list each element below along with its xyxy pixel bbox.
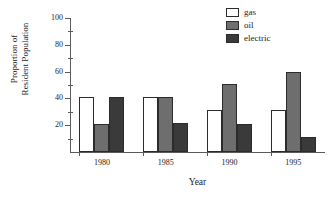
x-tick [79,152,80,156]
y-tick-label: 40 [41,94,63,102]
x-tick-label: 1980 [82,158,122,167]
y-axis-title-line-2: Resident Population [20,0,31,124]
x-tick [143,152,144,156]
legend-swatch-oil [226,21,239,30]
y-tick-minor [68,85,73,86]
y-tick-major [65,125,70,126]
x-axis-title: Year [70,177,325,187]
legend-swatch-electric [226,34,239,43]
y-tick-label: 20 [41,121,63,129]
bar-oil-1985 [158,97,173,152]
legend-label-oil: oil [244,21,254,30]
legend-label-electric: electric [244,34,270,43]
x-tick-label: 1990 [209,158,249,167]
y-tick-minor [68,112,73,113]
bar-gas-1980 [79,97,94,152]
x-tick-label: 1985 [146,158,186,167]
y-axis-title: Proportion of Resident Population [9,0,31,124]
y-tick-major [65,45,70,46]
y-tick-major [65,98,70,99]
bar-oil-1980 [94,124,109,152]
x-axis-line [70,152,325,153]
bar-gas-1985 [143,97,158,152]
y-tick-major [65,18,70,19]
bar-gas-1990 [207,110,222,152]
bar-electric-1995 [301,137,316,152]
legend-item-gas: gas [226,7,270,18]
chart-legend: gas oil electric [226,7,270,44]
legend-item-electric: electric [226,33,270,44]
y-tick-minor [68,139,73,140]
y-tick-minor [68,31,73,32]
x-tick [207,152,208,156]
legend-swatch-gas [226,8,239,17]
y-tick-label: 60 [41,68,63,76]
bar-electric-1980 [109,97,124,152]
bar-chart: gas oil electric 10080604020 19801985199… [0,0,334,200]
bar-oil-1995 [286,72,301,152]
x-tick [271,152,272,156]
x-tick-label: 1995 [273,158,313,167]
y-tick-major [65,72,70,73]
legend-item-oil: oil [226,20,270,31]
bar-electric-1990 [237,124,252,152]
y-tick-label: 80 [41,41,63,49]
legend-label-gas: gas [244,8,256,17]
bar-gas-1995 [271,110,286,152]
y-tick-minor [68,58,73,59]
y-axis-title-line-1: Proportion of [9,0,20,124]
y-tick-label: 100 [41,14,63,22]
bar-electric-1985 [173,123,188,152]
bar-oil-1990 [222,84,237,152]
